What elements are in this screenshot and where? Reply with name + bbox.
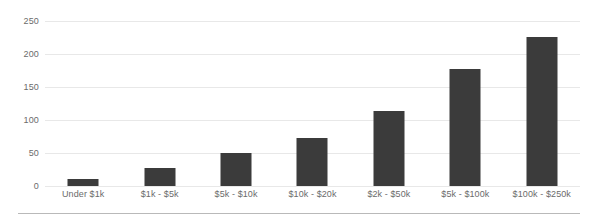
bar[interactable] — [68, 179, 99, 186]
x-axis-tick-label: $5k - $100k — [441, 190, 489, 199]
bottom-divider — [18, 213, 580, 214]
y-axis-tick-label: 250 — [0, 17, 39, 26]
bar[interactable] — [450, 69, 481, 186]
x-axis: Under $1k $1k - $5k $5k - $10k $10k - $2… — [45, 190, 580, 204]
y-axis-tick-label: 150 — [0, 83, 39, 92]
y-axis-tick-label: 100 — [0, 116, 39, 125]
bar-slot — [351, 21, 427, 186]
gridline — [45, 186, 580, 187]
bar-slot — [121, 21, 197, 186]
x-axis-tick-label: $2k - $50k — [367, 190, 410, 199]
x-axis-tick-label: Under $1k — [62, 190, 104, 199]
bar[interactable] — [526, 37, 557, 186]
x-axis-tick-label: $1k - $5k — [141, 190, 179, 199]
y-axis: 250 200 150 100 50 0 — [0, 21, 39, 186]
bar-slot — [45, 21, 121, 186]
bars-layer — [45, 21, 580, 186]
x-axis-tick-label: $10k - $20k — [288, 190, 336, 199]
x-axis-tick-label: $100k - $250k — [513, 190, 571, 199]
bar-chart: 250 200 150 100 50 0 — [0, 0, 594, 223]
bar-slot — [504, 21, 580, 186]
x-axis-tick-label: $5k - $10k — [215, 190, 258, 199]
bar[interactable] — [221, 153, 252, 186]
y-axis-tick-label: 50 — [0, 149, 39, 158]
bar[interactable] — [373, 111, 404, 186]
bar-slot — [274, 21, 350, 186]
bar[interactable] — [144, 168, 175, 186]
y-axis-tick-label: 0 — [0, 182, 39, 191]
y-axis-tick-label: 200 — [0, 50, 39, 59]
bar[interactable] — [297, 138, 328, 186]
bar-slot — [198, 21, 274, 186]
bar-slot — [427, 21, 503, 186]
